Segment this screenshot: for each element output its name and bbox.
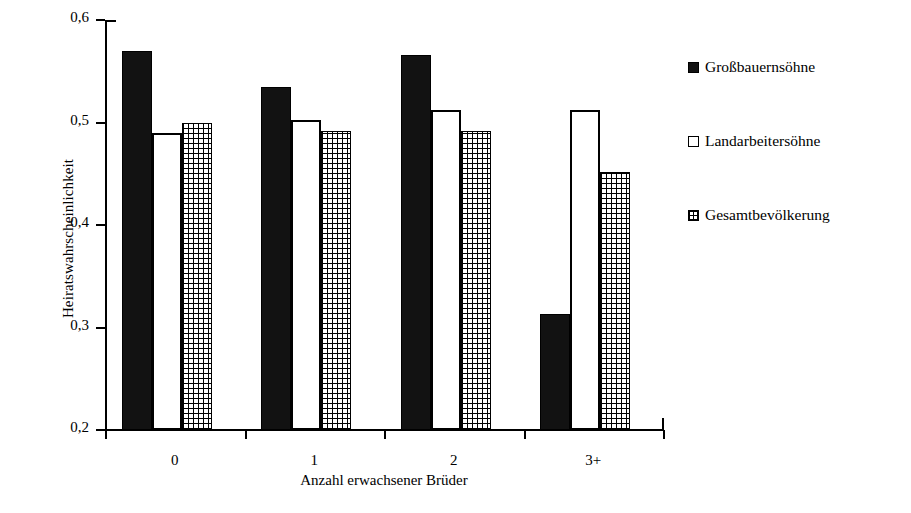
bar-2-series-1 <box>431 110 461 430</box>
bar-1-series-2 <box>321 131 351 430</box>
bar-3plus-series-1 <box>570 110 600 430</box>
legend-item-1: Landarbeitersöhne <box>688 132 908 150</box>
legend-swatch-solid-icon <box>688 62 699 73</box>
x-tick-3 <box>524 430 526 439</box>
plot-area: 0,20,30,40,50,6 0123+ <box>105 20 663 430</box>
bar-3plus-series-0 <box>540 314 570 430</box>
legend-item-2: Gesamtbevölkerung <box>688 206 908 224</box>
x-tick-label-1: 1 <box>284 452 344 469</box>
y-tick-label-3: 0,5 <box>70 112 89 129</box>
legend: Großbauernsöhne Landarbeitersöhne Gesamt… <box>688 58 908 280</box>
x-tick-label-0: 0 <box>145 452 205 469</box>
x-tick-1 <box>245 430 247 439</box>
y-tick-4: 0,6 <box>96 19 105 21</box>
bar-2-series-0 <box>401 55 431 430</box>
x-axis-title: Anzahl erwachsener Brüder <box>105 472 663 489</box>
bar-3plus-series-2 <box>600 172 630 430</box>
legend-swatch-open-icon <box>688 136 699 147</box>
x-tick-0 <box>105 430 107 439</box>
bar-1-series-0 <box>261 87 291 430</box>
legend-label-2: Gesamtbevölkerung <box>705 206 830 224</box>
y-tick-label-1: 0,3 <box>70 317 89 334</box>
y-tick-2: 0,4 <box>96 224 105 226</box>
x-tick-4 <box>663 430 665 439</box>
legend-swatch-hatch-icon <box>688 210 699 221</box>
x-tick-label-3: 3+ <box>563 452 623 469</box>
bar-0-series-2 <box>182 123 212 431</box>
x-tick-label-2: 2 <box>424 452 484 469</box>
legend-item-0: Großbauernsöhne <box>688 58 908 76</box>
y-tick-0: 0,2 <box>96 429 105 431</box>
x-tick-2 <box>384 430 386 439</box>
bar-0-series-1 <box>152 133 182 430</box>
bar-0-series-0 <box>122 51 152 430</box>
y-axis-top-stub <box>105 20 116 22</box>
y-tick-label-2: 0,4 <box>70 214 89 231</box>
bar-1-series-1 <box>291 120 321 430</box>
y-tick-3: 0,5 <box>96 122 105 124</box>
y-tick-1: 0,3 <box>96 327 105 329</box>
bar-chart-figure: Heiratswahrscheinlichkeit 0,20,30,40,50,… <box>0 0 911 513</box>
legend-label-0: Großbauernsöhne <box>705 58 815 76</box>
y-axis-line <box>105 20 107 431</box>
y-tick-label-0: 0,2 <box>70 419 89 436</box>
legend-label-1: Landarbeitersöhne <box>705 132 820 150</box>
bar-2-series-2 <box>461 131 491 430</box>
y-tick-label-4: 0,6 <box>70 9 89 26</box>
x-axis-end-stub <box>662 418 664 430</box>
